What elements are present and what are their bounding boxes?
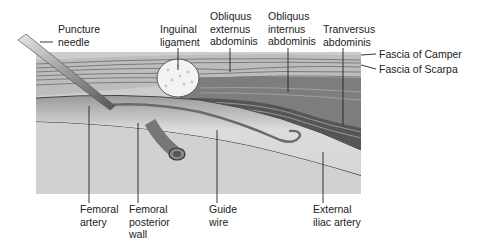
label-fascia-camper: Fascia of Camper: [379, 48, 462, 61]
label-puncture-needle: Puncture needle: [58, 23, 100, 48]
label-guide-wire: Guide wire: [209, 203, 237, 228]
label-external-iliac-artery: External iliac artery: [313, 203, 361, 228]
label-femoral-artery: Femoral artery: [80, 203, 119, 228]
label-inguinal-ligament: Inguinal ligament: [160, 23, 200, 48]
label-femoral-posterior-wall: Femoral posterior wall: [129, 203, 170, 241]
label-fascia-scarpa: Fascia of Scarpa: [379, 63, 458, 76]
femoral-puncture-diagram: Puncture needle Inguinal ligament Obliqu…: [0, 0, 478, 246]
label-tranversus-abdominis: Tranversus abdominis: [323, 23, 375, 48]
label-obliquus-internus: Obliquus internus abdominis: [268, 10, 316, 48]
label-obliquus-externus: Obliquus externus abdominis: [210, 10, 258, 48]
